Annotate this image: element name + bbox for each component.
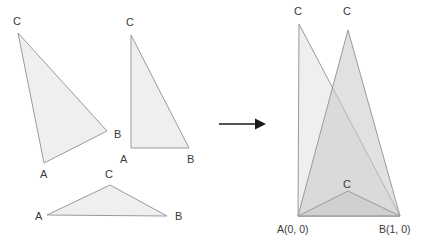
triangle-3-vertex-b-label: B [175, 210, 182, 222]
triangle-1-vertex-a-label: A [40, 168, 48, 180]
triangle-2: C B A [120, 16, 194, 165]
triangle-3: C B A [35, 168, 182, 222]
base-vertex-b-label: B(1, 0) [379, 223, 411, 235]
mapped-triangles-group: C C C A(0, 0) B(1, 0) [277, 5, 411, 235]
triangle-3-vertex-c-label: C [105, 168, 113, 180]
triangle-2-shape [131, 35, 189, 148]
triangle-1: C B A [13, 15, 121, 180]
triangle-2-vertex-a-label: A [120, 153, 128, 165]
mapped-triangle-2-apex-label: C [343, 5, 351, 17]
triangle-1-vertex-b-label: B [114, 128, 121, 140]
triangle-2-vertex-c-label: C [126, 16, 134, 28]
triangle-3-shape [47, 185, 167, 216]
triangle-2-vertex-b-label: B [187, 153, 194, 165]
arrow-head-icon [255, 119, 266, 130]
source-triangles-group: C B A C B A C B A [13, 15, 194, 222]
mapped-triangle-1-apex-label: C [294, 5, 302, 17]
figure-canvas: C B A C B A C B A [0, 0, 431, 245]
triangle-1-vertex-c-label: C [13, 15, 21, 27]
mapped-triangle-3-apex-label: C [343, 178, 351, 190]
transform-arrow [219, 119, 266, 130]
geometry-figure: C B A C B A C B A [0, 0, 431, 245]
triangle-1-shape [18, 33, 107, 163]
base-vertex-a-label: A(0, 0) [277, 223, 309, 235]
triangle-3-vertex-a-label: A [35, 210, 43, 222]
